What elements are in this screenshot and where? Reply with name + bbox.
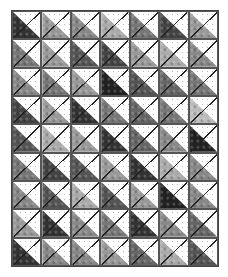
quilt-block — [159, 209, 188, 237]
quilt-block — [41, 238, 70, 266]
quilt-block — [100, 238, 129, 266]
diagonal-seam — [72, 12, 99, 38]
quilt-block — [41, 11, 70, 39]
quilt-block — [41, 39, 70, 67]
diagonal-seam — [190, 97, 217, 123]
diagonal-seam — [42, 69, 69, 95]
diagonal-seam — [42, 239, 69, 265]
quilt-block — [41, 124, 70, 152]
quilt-block — [130, 209, 159, 237]
diagonal-seam — [131, 69, 158, 95]
diagonal-seam — [131, 125, 158, 151]
diagonal-seam — [190, 210, 217, 236]
diagonal-seam — [101, 69, 128, 95]
quilt-block — [12, 209, 41, 237]
diagonal-seam — [160, 210, 187, 236]
diagonal-seam — [42, 97, 69, 123]
diagonal-seam — [42, 40, 69, 66]
diagonal-seam — [160, 182, 187, 208]
quilt-block — [71, 96, 100, 124]
quilt-block — [189, 238, 218, 266]
quilt-block — [100, 96, 129, 124]
diagonal-seam — [101, 210, 128, 236]
quilt-block — [41, 96, 70, 124]
quilt-block — [71, 124, 100, 152]
quilt-block — [130, 39, 159, 67]
diagonal-seam — [190, 12, 217, 38]
diagonal-seam — [190, 239, 217, 265]
diagonal-seam — [72, 182, 99, 208]
diagonal-seam — [42, 12, 69, 38]
quilt-block — [159, 96, 188, 124]
diagonal-seam — [190, 125, 217, 151]
diagonal-seam — [13, 40, 40, 66]
quilt-block — [12, 153, 41, 181]
diagonal-seam — [160, 239, 187, 265]
diagonal-seam — [101, 125, 128, 151]
diagonal-seam — [13, 182, 40, 208]
diagonal-seam — [13, 239, 40, 265]
diagonal-seam — [190, 40, 217, 66]
quilt-block — [159, 39, 188, 67]
quilt-block — [189, 124, 218, 152]
diagonal-seam — [42, 154, 69, 180]
diagonal-seam — [160, 40, 187, 66]
quilt-block — [41, 181, 70, 209]
diagonal-seam — [131, 154, 158, 180]
quilt-block — [71, 153, 100, 181]
diagonal-seam — [13, 12, 40, 38]
quilt-block — [159, 181, 188, 209]
diagonal-seam — [72, 125, 99, 151]
quilt-block — [189, 181, 218, 209]
quilt-block — [71, 68, 100, 96]
diagonal-seam — [72, 239, 99, 265]
quilt-block — [100, 209, 129, 237]
quilt-block — [12, 124, 41, 152]
quilt-block — [189, 68, 218, 96]
diagonal-seam — [131, 182, 158, 208]
diagonal-seam — [160, 12, 187, 38]
quilt-block — [41, 209, 70, 237]
quilt-block — [189, 39, 218, 67]
diagonal-seam — [13, 97, 40, 123]
quilt-block — [100, 11, 129, 39]
quilt-block — [189, 96, 218, 124]
quilt-block — [130, 96, 159, 124]
quilt-block — [130, 238, 159, 266]
diagonal-seam — [160, 97, 187, 123]
quilt-block — [12, 11, 41, 39]
diagonal-seam — [13, 210, 40, 236]
diagonal-seam — [101, 40, 128, 66]
diagonal-seam — [72, 69, 99, 95]
diagonal-seam — [101, 239, 128, 265]
quilt-block — [71, 238, 100, 266]
quilt-block — [71, 181, 100, 209]
quilt-block — [71, 39, 100, 67]
quilt-block — [159, 153, 188, 181]
diagonal-seam — [42, 182, 69, 208]
diagonal-seam — [101, 97, 128, 123]
diagonal-seam — [131, 210, 158, 236]
quilt-block — [189, 11, 218, 39]
diagonal-seam — [13, 125, 40, 151]
quilt-block — [189, 209, 218, 237]
diagonal-seam — [131, 97, 158, 123]
diagonal-seam — [72, 154, 99, 180]
diagonal-seam — [101, 154, 128, 180]
quilt-block — [12, 238, 41, 266]
quilt-block — [12, 181, 41, 209]
quilt-block — [100, 124, 129, 152]
quilt-block — [130, 181, 159, 209]
diagonal-seam — [131, 12, 158, 38]
diagonal-seam — [72, 40, 99, 66]
diagonal-seam — [160, 125, 187, 151]
quilt-block — [130, 68, 159, 96]
diagonal-seam — [101, 182, 128, 208]
quilt-block — [12, 68, 41, 96]
diagonal-seam — [42, 210, 69, 236]
diagonal-seam — [190, 154, 217, 180]
quilt-block — [71, 11, 100, 39]
diagonal-seam — [101, 12, 128, 38]
diagonal-seam — [13, 69, 40, 95]
diagonal-seam — [160, 154, 187, 180]
